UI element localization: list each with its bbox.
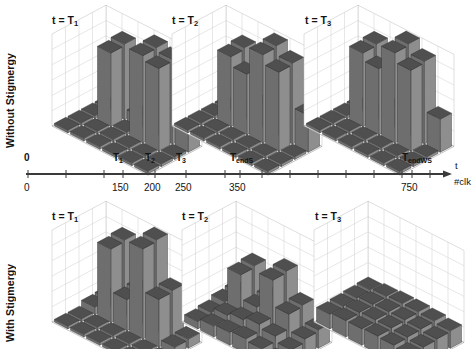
timeline-origin-bottom-text: 0 [24,182,30,193]
timeline-axis-label-t: t [455,160,458,171]
timeline-origin-top-text: 0 [24,152,30,163]
panel-with-T2 [168,204,310,344]
figure-root: Without Stigmergy With Stigmergy t = T1t… [0,0,472,349]
row-label-with-stigmergy: With Stigmergy [4,218,16,342]
timeline-marker-top-1-subscript: 2 [151,157,155,164]
chart-with-T3 [300,204,442,344]
timeline-origin-top: 0 [24,152,30,163]
panel-title-subscript: 1 [74,215,78,224]
timeline-axis: 00T1150T2200T3250TendS350TendWS750t#clk [0,152,472,202]
panel-title-subscript: 2 [194,19,198,28]
panel-with-T1 [38,204,180,344]
timeline-marker-top-0-subscript: 1 [119,157,123,164]
chart-without-T2 [158,8,300,148]
timeline-arrowhead [443,170,452,177]
panel-title-text: t = T [182,210,204,222]
panel-title-text: t = T [172,14,194,26]
timeline-marker-bottom-1-text: 200 [144,182,161,193]
panel-title-without-T3: t = T3 [305,14,331,26]
panel-title-subscript: 3 [327,19,331,28]
timeline-origin-bottom: 0 [24,182,30,193]
timeline-marker-top-3-subscript: endS [236,157,253,164]
panel-title-subscript: 3 [337,215,341,224]
timeline-marker-bottom-4: 750 [401,182,418,193]
panel-title-text: t = T [305,14,327,26]
bar-cell [398,58,422,152]
timeline-marker-top-2: T3 [176,152,186,163]
panel-without-T2 [158,8,300,148]
timeline-marker-top-0: T1 [113,152,123,163]
timeline-marker-bottom-0-text: 150 [112,182,129,193]
panel-title-text: t = T [315,210,337,222]
timeline-marker-top-4-subscript: endWS [408,157,432,164]
bar-cell [427,106,451,152]
panel-title-text: t = T [52,210,74,222]
timeline-marker-bottom-2-text: 250 [175,182,192,193]
timeline-marker-bottom-4-text: 750 [401,182,418,193]
timeline-marker-top-2-subscript: 3 [182,157,186,164]
timeline-marker-top-4: TendWS [402,152,432,163]
panel-title-subscript: 2 [204,215,208,224]
panel-title-with-T3: t = T3 [315,210,341,222]
chart-without-T3 [290,8,432,148]
timeline-marker-bottom-1: 200 [144,182,161,193]
timeline-axis-label-clk: #clk [454,176,471,187]
panel-title-without-T2: t = T2 [172,14,198,26]
bar-cell [98,40,122,126]
chart-with-T2 [168,204,310,344]
panel-title-with-T2: t = T2 [182,210,208,222]
panel-title-with-T1: t = T1 [52,210,78,222]
panel-title-without-T1: t = T1 [52,14,78,26]
row-label-without-stigmergy: Without Stigmergy [4,22,16,148]
panel-title-text: t = T [52,14,74,26]
bar-cell [266,59,290,151]
panel-without-T3 [290,8,432,148]
panel-with-T3 [300,204,442,344]
panel-title-subscript: 1 [74,19,78,28]
timeline-marker-top-3: TendS [230,152,253,163]
timeline-marker-bottom-3-text: 350 [229,182,246,193]
timeline-marker-bottom-2: 250 [175,182,192,193]
chart-with-T1 [38,204,180,344]
timeline-marker-top-1: T2 [145,152,155,163]
timeline-marker-bottom-3: 350 [229,182,246,193]
timeline-marker-bottom-0: 150 [112,182,129,193]
